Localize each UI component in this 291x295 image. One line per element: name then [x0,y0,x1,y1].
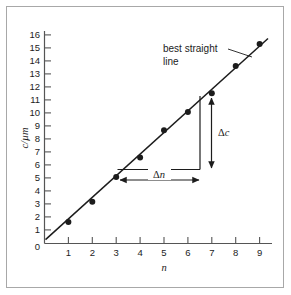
slope-triangle [118,96,201,170]
y-tick-label-16: 16 [29,29,40,40]
best-line-annotation-line2: line [163,56,179,67]
x-tick-label-7: 7 [209,247,214,258]
delta-c-label: Δc [218,127,230,138]
x-tick-label-1: 1 [66,247,71,258]
y-tick-label-11: 11 [30,94,40,105]
y-tick-label-8: 8 [35,133,40,144]
y-tick-label-4: 4 [35,185,40,196]
y-tick-marks [45,35,52,230]
data-point-n4 [137,155,143,161]
figure-container: 16 15 14 13 12 11 10 9 8 7 6 5 4 3 2 1 0… [0,0,291,295]
best-line-annotation-line1: best straight [163,43,218,54]
delta-n-label-top: Δn [153,169,165,180]
x-axis-title: n [161,262,166,273]
data-points [65,41,262,225]
y-tick-label-2: 2 [35,211,40,222]
y-tick-label-0: 0 [35,241,40,252]
x-tick-label-4: 4 [137,247,142,258]
y-tick-label-9: 9 [35,120,40,131]
scatter-chart: 16 15 14 13 12 11 10 9 8 7 6 5 4 3 2 1 0… [0,0,291,295]
best-line-leader [228,49,252,57]
x-tick-label-2: 2 [90,247,95,258]
y-tick-label-15: 15 [29,42,40,53]
x-tick-label-3: 3 [114,247,119,258]
x-tick-label-5: 5 [161,247,166,258]
y-tick-label-12: 12 [29,81,40,92]
y-tick-label-5: 5 [35,172,40,183]
data-point-n7 [209,90,215,96]
x-tick-label-9: 9 [257,247,262,258]
x-tick-label-6: 6 [185,247,190,258]
x-tick-marks [68,237,259,244]
data-point-n1 [65,219,71,225]
y-tick-label-7: 7 [35,146,40,157]
y-tick-label-10: 10 [29,107,40,118]
data-point-n3 [113,174,119,180]
data-point-n9 [257,41,263,47]
data-point-n2 [89,199,95,205]
y-tick-label-1: 1 [35,224,40,235]
x-tick-label-8: 8 [233,247,238,258]
y-axis-title: c/µm [19,127,30,149]
y-tick-label-14: 14 [29,55,40,66]
y-tick-label-3: 3 [35,198,40,209]
data-point-n6 [185,109,191,115]
data-point-n8 [233,63,239,69]
y-tick-label-6: 6 [35,159,40,170]
data-point-n5 [161,127,167,133]
y-tick-label-13: 13 [29,68,40,79]
